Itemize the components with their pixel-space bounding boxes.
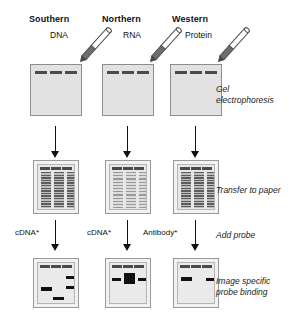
result-wells — [112, 265, 144, 268]
blot-well — [180, 167, 190, 170]
result-well — [112, 265, 122, 268]
sample-label-protein: Protein — [185, 30, 212, 40]
blot-wells — [112, 167, 144, 170]
stage-caption-add-probe: Add probe — [216, 230, 255, 241]
result-membrane — [177, 262, 215, 304]
gel-southern — [30, 64, 82, 116]
result-film-northern — [105, 258, 151, 308]
result-well — [62, 265, 72, 268]
result-wells — [40, 265, 72, 268]
result-membrane — [109, 262, 147, 304]
column-title-southern: Southern — [29, 14, 69, 24]
result-film-southern — [33, 258, 79, 308]
result-well — [202, 265, 212, 268]
gel-western — [170, 64, 222, 116]
result-film-western — [173, 258, 219, 308]
arrow-probe-northern — [122, 220, 133, 252]
blot-lane-smear — [194, 172, 204, 208]
blot-lane-smear — [207, 172, 215, 208]
stage-caption-transfer-to-paper: Transfer to paper — [216, 185, 281, 196]
probe-label-western: Antibody* — [143, 228, 177, 237]
blot-wells — [40, 167, 72, 170]
gel-well — [107, 71, 119, 74]
result-band — [41, 287, 52, 291]
blot-well — [134, 167, 144, 170]
gel-well — [122, 71, 134, 74]
sample-label-rna: RNA — [123, 30, 141, 40]
result-band — [66, 286, 75, 289]
pipette-icon-northern — [142, 22, 188, 68]
blot-lane-smear — [181, 172, 191, 208]
result-band — [53, 297, 64, 300]
arrow-probe-western — [190, 220, 201, 252]
arrow-transfer-western — [190, 126, 201, 158]
pipette-icon-southern — [72, 22, 118, 68]
arrow-probe-southern — [50, 220, 61, 252]
blot-well — [123, 167, 133, 170]
result-well — [180, 265, 190, 268]
result-well — [191, 265, 201, 268]
result-band — [112, 278, 121, 281]
result-well — [134, 265, 144, 268]
sample-label-dna: DNA — [50, 30, 68, 40]
gel-well — [175, 71, 187, 74]
result-wells — [180, 265, 212, 268]
blot-membrane — [177, 164, 215, 210]
gel-well — [205, 71, 217, 74]
result-membrane — [37, 262, 75, 304]
result-well — [51, 265, 61, 268]
blot-lane-smear — [54, 172, 64, 208]
gel-wells — [107, 71, 149, 74]
blot-well — [62, 167, 72, 170]
blot-western — [173, 160, 219, 214]
result-well — [123, 265, 133, 268]
gel-well — [35, 71, 47, 74]
probe-label-northern: cDNA* — [87, 228, 111, 237]
gel-wells — [35, 71, 77, 74]
blot-well — [40, 167, 50, 170]
stage-caption-image-specific-probe-binding: Image specific probe binding — [216, 276, 270, 298]
gel-well — [65, 71, 77, 74]
blot-wells — [180, 167, 212, 170]
result-band — [66, 276, 75, 279]
gel-wells — [175, 71, 217, 74]
gel-well — [190, 71, 202, 74]
blot-northern — [105, 160, 151, 214]
result-band — [206, 278, 215, 281]
result-band — [138, 278, 147, 281]
blot-lane-smear — [67, 172, 75, 208]
probe-label-southern: cDNA* — [15, 228, 39, 237]
gel-well — [137, 71, 149, 74]
blot-well — [112, 167, 122, 170]
gel-northern — [102, 64, 154, 116]
blot-lane-smear — [113, 172, 123, 208]
blot-southern — [33, 160, 79, 214]
blot-membrane — [109, 164, 147, 210]
stage-caption-gel-electrophoresis: Gel electrophoresis — [216, 84, 274, 106]
blot-well — [191, 167, 201, 170]
arrow-transfer-southern — [50, 126, 61, 158]
pipette-icon-western — [210, 22, 256, 68]
result-band-strong — [181, 277, 192, 281]
blot-lane-smear — [139, 172, 147, 208]
gel-well — [50, 71, 62, 74]
blot-well — [51, 167, 61, 170]
blot-well — [202, 167, 212, 170]
blot-lane-smear — [126, 172, 136, 208]
blot-lane-smear — [41, 172, 51, 208]
result-well — [40, 265, 50, 268]
arrow-transfer-northern — [122, 126, 133, 158]
result-band-strong — [124, 273, 135, 284]
blot-membrane — [37, 164, 75, 210]
